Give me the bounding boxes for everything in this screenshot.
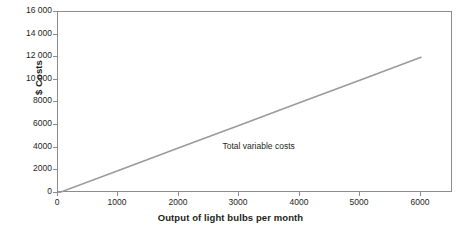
x-tick-label: 5000	[334, 198, 384, 207]
y-tick-label: 6000	[8, 119, 52, 128]
series-annotation-label: Total variable costs	[223, 141, 295, 151]
y-tick-label: 14 000	[8, 29, 52, 38]
y-tick-label: 8000	[8, 96, 52, 105]
x-axis-title: Output of light bulbs per month	[0, 212, 461, 223]
y-tick-label: 10 000	[8, 74, 52, 83]
x-tick-label: 6000	[395, 198, 445, 207]
x-tick-mark	[420, 192, 421, 196]
x-tick-label: 2000	[153, 198, 203, 207]
series-line-total-variable-costs	[58, 12, 453, 193]
x-tick-mark	[178, 192, 179, 196]
plot-area: Total variable costs	[57, 11, 452, 192]
x-tick-mark	[57, 192, 58, 196]
x-tick-mark	[117, 192, 118, 196]
x-tick-mark	[238, 192, 239, 196]
y-tick-label: 2000	[8, 164, 52, 173]
x-tick-mark	[359, 192, 360, 196]
x-tick-label: 0	[32, 198, 82, 207]
variable-costs-line-chart: $ Costs 0 2000 4000 6000 8000 10 000 12 …	[0, 0, 461, 235]
y-tick-label: 12 000	[8, 51, 52, 60]
x-tick-label: 4000	[274, 198, 324, 207]
y-tick-label: 0	[8, 187, 52, 196]
x-tick-label: 1000	[92, 198, 142, 207]
y-tick-label: 4000	[8, 142, 52, 151]
x-tick-label: 3000	[213, 198, 263, 207]
x-tick-mark	[299, 192, 300, 196]
y-tick-label: 16 000	[8, 6, 52, 15]
